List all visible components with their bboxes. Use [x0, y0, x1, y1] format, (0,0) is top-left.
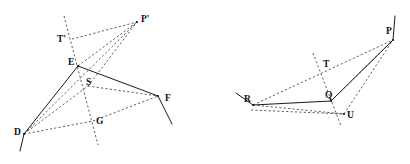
vertex-dot-e — [77, 65, 79, 67]
point-label-r: R — [244, 94, 251, 104]
solid-path-r-q-p — [236, 16, 395, 105]
point-label-g: G — [96, 116, 104, 126]
dashed-line-d-to-pprime — [24, 22, 137, 134]
vertex-dot-p — [392, 39, 394, 41]
dashed-line-r-to-u — [253, 105, 344, 114]
vertex-dot-f — [157, 95, 159, 97]
right-diagram: R Q U T P — [236, 16, 395, 126]
dashed-line-s-to-pprime — [88, 22, 137, 86]
geometry-figure-canvas: D E F S G T' P' R Q — [0, 0, 410, 164]
point-label-t: T — [323, 59, 330, 69]
point-label-e: E — [68, 57, 74, 67]
dashed-line-r-base-to-u — [251, 110, 344, 114]
point-label-q: Q — [325, 90, 332, 100]
vertex-dot-q — [330, 100, 332, 102]
point-label-p-prime: P' — [141, 14, 149, 24]
vertex-dot-pprime — [136, 21, 138, 23]
point-label-u: U — [347, 110, 354, 120]
left-diagram-solid-polygon — [20, 66, 172, 151]
dashed-line-u-to-p — [344, 40, 393, 114]
right-diagram-solid-polygon — [236, 16, 395, 105]
point-label-p: P — [386, 26, 392, 36]
dashed-line-s-to-f — [88, 86, 158, 96]
point-label-f: F — [165, 93, 171, 103]
dashed-line-tprime-to-pprime — [72, 22, 137, 39]
solid-path-d-e-f — [20, 66, 172, 151]
vertex-dot-u — [343, 113, 345, 115]
dashed-line-d-to-g — [24, 121, 93, 134]
left-diagram-point-labels: D E F S G T' P' — [14, 14, 171, 137]
vertex-dot-r — [252, 104, 254, 106]
dashed-line-r-to-p — [253, 40, 393, 105]
left-diagram: D E F S G T' P' — [14, 14, 172, 151]
vertex-dot-d — [23, 133, 25, 135]
right-diagram-dashed-construction-lines — [251, 40, 393, 126]
point-label-s: S — [86, 77, 91, 87]
dashed-line-e-to-pprime — [78, 22, 137, 66]
point-label-d: D — [14, 127, 21, 137]
point-label-t-prime: T' — [57, 34, 66, 44]
